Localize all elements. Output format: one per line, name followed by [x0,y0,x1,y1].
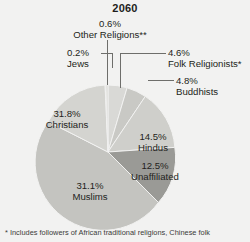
slice-name-christians: Christians [30,119,104,130]
slice-label-hindus: 14.5% Hindus [122,131,184,154]
slice-value-muslims: 31.1% [53,180,127,191]
slice-value-other-religions: 0.6% [50,18,170,29]
slice-label-christians: 31.8% Christians [30,108,104,131]
slice-label-buddhists: 4.8% Buddhists [176,75,218,98]
leader-line-folk-religionists [120,53,166,88]
slice-value-unaffiliated: 12.5% [117,160,193,171]
slice-name-folk-religionists: Folk Religionists* [168,58,242,69]
pie-chart-figure: 2060 0.6% Other Relig [0,0,250,242]
slice-label-unaffiliated: 12.5% Unaffiliated [117,160,193,183]
slice-value-buddhists: 4.8% [176,75,218,86]
chart-footnote: * Includes followers of African traditio… [5,228,249,237]
slice-name-buddhists: Buddhists [176,86,218,97]
slice-name-jews: Jews [55,58,101,69]
slice-value-jews: 0.2% [55,47,101,58]
slice-name-hindus: Hindus [122,142,184,153]
slice-value-folk-religionists: 4.6% [168,47,242,58]
slice-value-christians: 31.8% [30,108,104,119]
slice-label-jews: 0.2% Jews [55,47,101,70]
slice-label-muslims: 31.1% Muslims [53,180,127,203]
slice-name-unaffiliated: Unaffiliated [117,171,193,182]
slice-label-folk-religionists: 4.6% Folk Religionists* [168,47,242,70]
slice-label-other-religions: 0.6% Other Religions** [50,18,170,41]
slice-name-other-religions: Other Religions** [50,29,170,40]
slice-value-hindus: 14.5% [122,131,184,142]
slice-name-muslims: Muslims [53,191,127,202]
